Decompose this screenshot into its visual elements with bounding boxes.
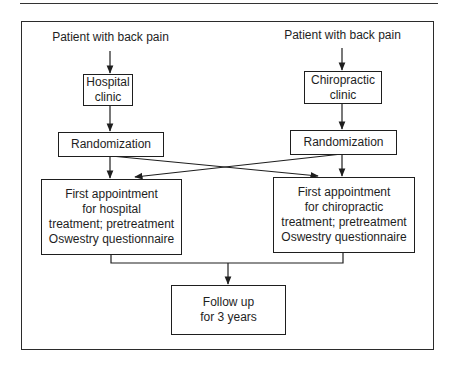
chiropractic-clinic-box: Chiropractic clinic [304,71,382,104]
arrow-left-randomization-to-right-appointment [111,156,318,176]
arrow-right-randomization-to-left-appointment [135,154,342,177]
follow-up-box: Follow up for 3 years [171,285,286,335]
hospital-clinic-text: Hospital clinic [86,75,129,105]
chiropractic-appointment-box: First appointment for chiropractic treat… [273,177,415,253]
hospital-appointment-box: First appointment for hospital treatment… [41,179,182,255]
chiropractic-clinic-text: Chiropractic clinic [311,73,375,103]
hospital-appointment-text: First appointment for hospital treatment… [49,187,174,247]
chiropractic-appointment-text: First appointment for chiropractic treat… [281,185,406,245]
follow-up-text: Follow up for 3 years [200,295,257,325]
right-randomization-box: Randomization [290,130,397,155]
left-entry-label: Patient with back pain [48,30,173,45]
left-randomization-text: Randomization [71,137,151,152]
right-randomization-text: Randomization [303,135,383,150]
right-entry-label: Patient with back pain [280,28,405,43]
hospital-clinic-box: Hospital clinic [83,74,133,106]
left-randomization-box: Randomization [58,132,164,157]
